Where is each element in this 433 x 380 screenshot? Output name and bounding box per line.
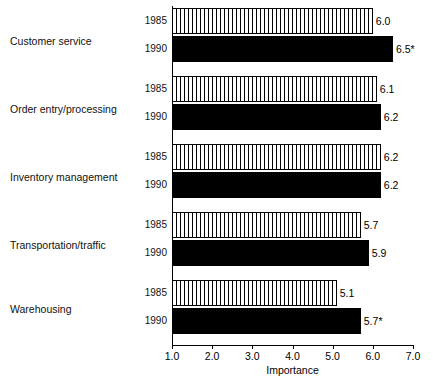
x-tick-label-2.0: 2.0	[192, 350, 232, 363]
year-label-1990-warehousing: 1990	[131, 315, 167, 327]
x-tick-label-5.0: 5.0	[313, 350, 353, 363]
plot-area: 6.06.5*6.16.26.26.25.75.95.15.7*	[172, 0, 433, 345]
bar-value-inventory-management-1990: 6.2	[381, 172, 399, 198]
category-label-customer-service: Customer service	[10, 35, 130, 47]
bar-value-customer-service-1985: 6.0	[373, 8, 391, 34]
bar-customer-service-1985	[172, 8, 373, 34]
bar-chart: Customer service Order entry/processing …	[0, 0, 433, 380]
category-label-order-entry-processing: Order entry/processing	[10, 103, 130, 115]
bar-value-warehousing-1990: 5.7*	[361, 308, 383, 334]
year-label-1985-warehousing: 1985	[131, 287, 167, 299]
x-tick-3.0	[252, 345, 253, 349]
x-tick-label-6.0: 6.0	[353, 350, 393, 363]
bar-inventory-management-1985	[172, 144, 381, 170]
bar-customer-service-1990	[172, 36, 393, 62]
year-label-1990-inventory-management: 1990	[131, 179, 167, 191]
category-label-inventory-management: Inventory management	[10, 171, 130, 183]
bar-value-customer-service-1990: 6.5*	[393, 36, 415, 62]
x-tick-label-1.0: 1.0	[152, 350, 192, 363]
year-label-1990-order-entry-processing: 1990	[131, 111, 167, 123]
x-tick-label-7.0: 7.0	[393, 350, 433, 363]
bar-value-warehousing-1985: 5.1	[337, 280, 355, 306]
year-label-1985-transportation-traffic: 1985	[131, 219, 167, 231]
bar-inventory-management-1990	[172, 172, 381, 198]
x-tick-label-4.0: 4.0	[273, 350, 313, 363]
bar-transportation-traffic-1985	[172, 212, 361, 238]
bar-value-inventory-management-1985: 6.2	[381, 144, 399, 170]
year-label-1990-customer-service: 1990	[131, 43, 167, 55]
x-tick-6.0	[373, 345, 374, 349]
x-tick-1.0	[172, 345, 173, 349]
bar-transportation-traffic-1990	[172, 240, 369, 266]
x-tick-7.0	[413, 345, 414, 349]
x-tick-4.0	[293, 345, 294, 349]
x-tick-label-3.0: 3.0	[232, 350, 272, 363]
x-axis-title: Importance	[172, 364, 413, 377]
bar-order-entry-processing-1990	[172, 104, 381, 130]
x-tick-2.0	[212, 345, 213, 349]
year-label-1985-order-entry-processing: 1985	[131, 83, 167, 95]
year-label-1985-inventory-management: 1985	[131, 151, 167, 163]
x-tick-5.0	[333, 345, 334, 349]
bar-warehousing-1985	[172, 280, 337, 306]
bar-value-transportation-traffic-1985: 5.7	[361, 212, 379, 238]
bar-value-transportation-traffic-1990: 5.9	[369, 240, 387, 266]
bar-value-order-entry-processing-1985: 6.1	[377, 76, 395, 102]
category-label-warehousing: Warehousing	[10, 303, 130, 315]
bar-order-entry-processing-1985	[172, 76, 377, 102]
year-label-1990-transportation-traffic: 1990	[131, 247, 167, 259]
bar-warehousing-1990	[172, 308, 361, 334]
bar-value-order-entry-processing-1990: 6.2	[381, 104, 399, 130]
category-label-transportation-traffic: Transportation/traffic	[10, 239, 130, 251]
year-label-1985-customer-service: 1985	[131, 15, 167, 27]
